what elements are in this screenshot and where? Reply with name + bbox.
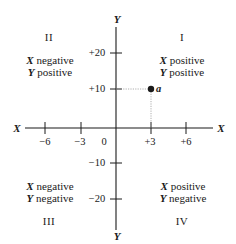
quadrant-iii-numeral: III (43, 215, 56, 227)
quadrant-iii-x-line: X negative (26, 180, 73, 192)
quadrant-iii-y-line: Y negative (26, 192, 73, 204)
quadrant-ii-x-line: X negative (26, 54, 73, 66)
quadrant-i-description: X positive Y positive (160, 54, 205, 78)
point-a-label: a (156, 83, 161, 95)
quadrant-iv-x-line: X positive (160, 180, 207, 192)
quadrant-i-numeral: I (180, 31, 184, 43)
coordinate-plane-diagram: Y Y X X −6 −3 0 +3 +6 +20 +10 −10 −20 a … (0, 0, 236, 244)
x-tick-label-minus-3: −3 (74, 136, 85, 148)
x-axis-label-right: X (217, 122, 224, 134)
y-tick-label-plus-10: +10 (89, 83, 105, 95)
quadrant-iii-description: X negative Y negative (26, 180, 73, 204)
quadrant-ii-numeral: II (45, 31, 53, 43)
x-tick-label-plus-6: +6 (180, 136, 191, 148)
quadrant-iv-y-line: Y negative (160, 192, 207, 204)
quadrant-i-y-line: Y positive (160, 66, 205, 78)
x-axis-label-left: X (13, 122, 20, 134)
quadrant-iv-description: X positive Y negative (160, 180, 207, 204)
x-tick-label-plus-3: +3 (144, 136, 155, 148)
y-tick-label-plus-20: +20 (89, 47, 105, 59)
point-a-marker (148, 86, 154, 92)
quadrant-ii-description: X negative Y positive (26, 54, 73, 78)
origin-label: 0 (101, 136, 106, 148)
axes-graphic (0, 0, 236, 244)
quadrant-i-x-line: X positive (160, 54, 205, 66)
y-tick-label-minus-20: −20 (89, 193, 105, 205)
y-axis-label-bottom: Y (114, 230, 121, 242)
quadrant-ii-y-line: Y positive (26, 66, 73, 78)
x-tick-label-minus-6: −6 (39, 136, 50, 148)
y-tick-label-minus-10: −10 (89, 157, 105, 169)
y-axis-label-top: Y (114, 13, 121, 25)
quadrant-iv-numeral: IV (176, 215, 189, 227)
